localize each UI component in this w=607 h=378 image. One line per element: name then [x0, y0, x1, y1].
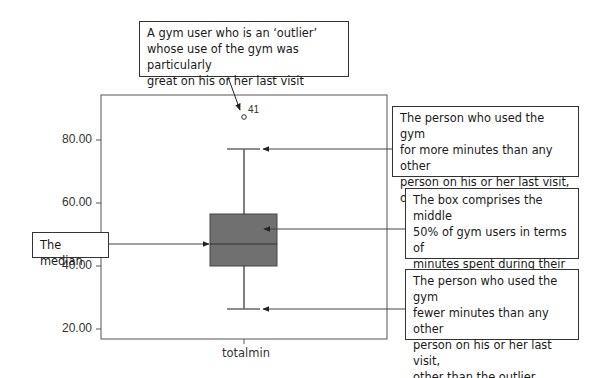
y-tick-label-20: 20.00: [42, 321, 92, 335]
y-tick-label-60: 60.00: [42, 195, 92, 209]
callout-max: The person who used the gym for more min…: [392, 106, 579, 177]
callout-outlier: A gym user who is an ‘outlier’ whose use…: [139, 21, 349, 77]
iqr-box: [210, 214, 277, 266]
outlier-point: [242, 115, 247, 120]
callout-min: The person who used the gym fewer minute…: [405, 269, 579, 340]
x-axis-label: totalmin: [222, 346, 270, 360]
callout-median: The median: [32, 232, 109, 258]
y-tick-label-80: 80.00: [42, 132, 92, 146]
callout-box: The box comprises the middle 50% of gym …: [405, 188, 579, 259]
outlier-id-label: 41: [248, 104, 259, 115]
